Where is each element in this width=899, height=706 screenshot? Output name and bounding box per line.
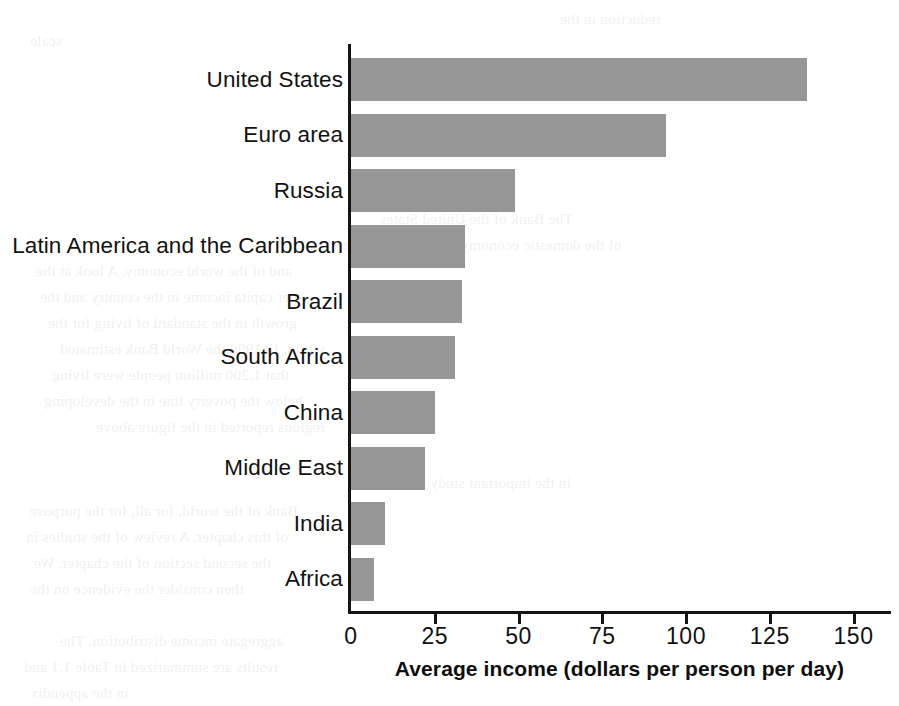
bar-row: Euro area (0, 114, 899, 157)
bar-category-label: Middle East (224, 455, 343, 481)
bar-row: Brazil (0, 280, 899, 323)
x-axis-tick-label: 75 (589, 623, 616, 650)
bar-category-label: South Africa (220, 344, 343, 370)
bar (351, 114, 666, 157)
x-axis-title: Average income (dollars per person per d… (348, 657, 891, 681)
bar-row: Middle East (0, 447, 899, 490)
bar (351, 502, 385, 545)
bar (351, 336, 455, 379)
bar-category-label: Russia (274, 178, 343, 204)
bar-category-label: India (294, 511, 343, 537)
bar (351, 558, 374, 601)
bar-chart-figure: United StatesEuro areaRussiaLatin Americ… (0, 0, 899, 706)
bar-row: India (0, 502, 899, 545)
bar-row: China (0, 391, 899, 434)
x-axis-tick-label: 25 (421, 623, 448, 650)
x-axis-tick-label: 125 (750, 623, 790, 650)
bar-category-label: Euro area (243, 122, 343, 148)
bar-category-label: Latin America and the Caribbean (12, 233, 343, 259)
bar (351, 391, 435, 434)
x-axis-tick-label: 150 (834, 623, 874, 650)
bar-row: South Africa (0, 336, 899, 379)
bar-category-label: United States (207, 67, 343, 93)
bar-row: Russia (0, 169, 899, 212)
bar-row: Africa (0, 558, 899, 601)
bar (351, 280, 462, 323)
bar (351, 58, 807, 101)
bar (351, 225, 465, 268)
bar (351, 447, 425, 490)
bar-category-label: Africa (285, 566, 343, 592)
bar-category-label: Brazil (286, 289, 343, 315)
bar (351, 169, 515, 212)
x-axis-tick-label: 100 (666, 623, 706, 650)
bar-row: United States (0, 58, 899, 101)
bar-category-label: China (284, 400, 343, 426)
x-axis-line (348, 611, 891, 614)
x-axis-tick-label: 0 (344, 623, 357, 650)
x-axis-tick-label: 50 (505, 623, 532, 650)
bar-row: Latin America and the Caribbean (0, 225, 899, 268)
